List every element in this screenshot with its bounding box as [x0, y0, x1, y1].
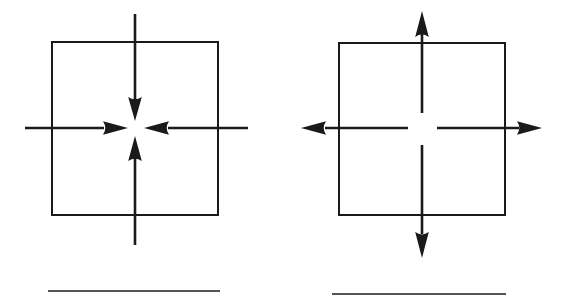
- force-diagram-figure: [0, 0, 563, 305]
- figure-background: [0, 0, 563, 305]
